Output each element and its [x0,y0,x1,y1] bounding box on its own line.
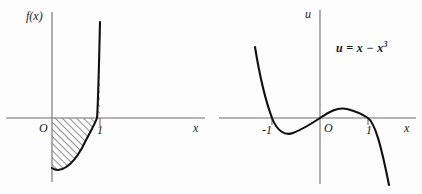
left-tick-label-1: 1 [97,124,103,136]
right-origin-label: O [324,122,333,134]
right-y-axis-label: u [305,8,311,20]
right-plot-svg [211,0,422,194]
left-y-axis-label: f(x) [26,10,43,22]
right-x-axis-label: x [404,122,409,134]
right-equation-label: u = x − x3 [336,41,388,54]
left-x-axis-label: x [193,122,198,134]
right-equation-exponent: 3 [383,40,387,49]
right-curve-cubic [255,47,389,185]
right-tick-label-1: 1 [366,124,372,136]
left-shaded-region-below [52,118,97,170]
figure-container: f(x) x O 1 u x O -1 1 u = x − x3 [0,0,422,194]
left-plot-svg [0,0,211,194]
left-origin-label: O [39,122,48,134]
left-plot-panel: f(x) x O 1 [0,0,211,194]
right-tick-label-neg1: -1 [262,124,272,136]
right-equation-base: u = x − x [336,41,383,55]
right-plot-panel: u x O -1 1 u = x − x3 [211,0,422,194]
